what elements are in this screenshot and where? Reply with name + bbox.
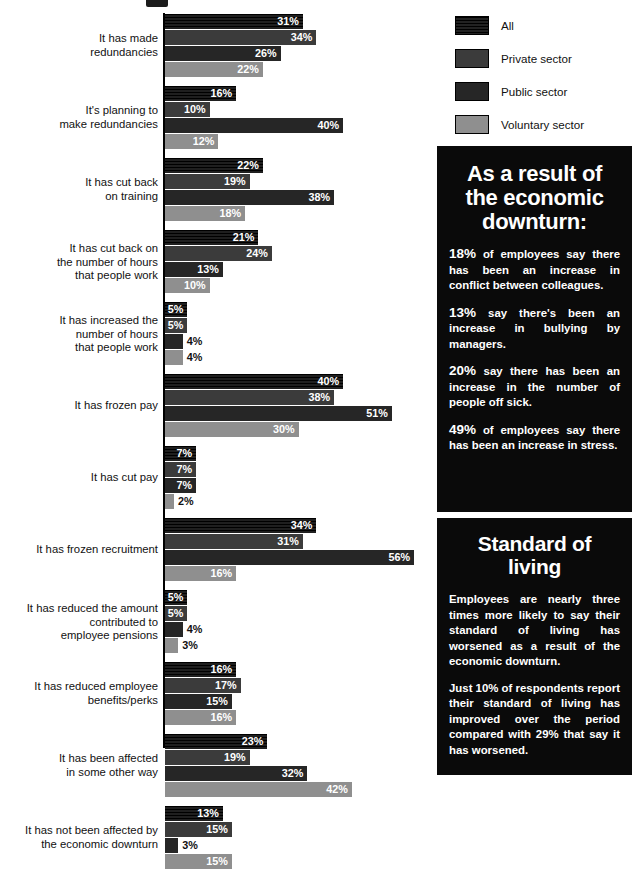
bar-value-label: 10% <box>184 103 206 116</box>
bar-value-label: 13% <box>197 807 219 820</box>
legend-item-label: Public sector <box>501 85 567 98</box>
legend-item-voluntary-sector: Voluntary sector <box>455 113 635 135</box>
info-box-stat: 18% <box>449 246 476 261</box>
legend-item-public-sector: Public sector <box>455 80 635 102</box>
bar <box>165 374 343 389</box>
bar-value-label: 3% <box>182 839 198 852</box>
info-box-title: As a result of the economic downturn: <box>449 162 620 234</box>
bar-group-label-line: in some other way <box>0 766 158 780</box>
bar <box>165 838 178 853</box>
bar-value-label: 4% <box>187 623 203 636</box>
bar-value-label: 19% <box>224 175 246 188</box>
bar <box>165 622 183 637</box>
bar <box>165 782 352 797</box>
bar <box>165 334 183 349</box>
info-box-paragraph: Employees are nearly three times more li… <box>449 592 620 670</box>
info-box-stat: 20% <box>449 363 476 378</box>
bar-group-label-line: contributed to <box>0 616 158 630</box>
bar-group-label: It has frozen pay <box>0 399 158 413</box>
bar-group-label: It has reduced the amountcontributed toe… <box>0 602 158 643</box>
bar-group-label: It has reduced employeebenefits/perks <box>0 680 158 707</box>
legend-item-label: Voluntary sector <box>501 118 584 131</box>
bar-group-label-line: It has reduced employee <box>0 680 158 694</box>
bar-group-label-line: It has cut back on <box>0 242 158 256</box>
bar-value-label: 34% <box>291 31 313 44</box>
bar-group: It has cut back onthe number of hourstha… <box>0 230 430 294</box>
bar-value-label: 16% <box>211 567 233 580</box>
bar-value-label: 3% <box>182 639 198 652</box>
bar-group: It has maderedundancies31%34%26%22% <box>0 14 430 78</box>
bar-group-label-line: the number of hours <box>0 256 158 270</box>
bar-value-label: 13% <box>197 263 219 276</box>
info-box-stat: 49% <box>449 422 476 437</box>
bar-group-label-line: make redundancies <box>0 118 158 132</box>
bar-group: It has been affectedin some other way23%… <box>0 734 430 798</box>
bar-value-label: 7% <box>177 463 193 476</box>
bar-value-label: 18% <box>219 207 241 220</box>
bar-group-label: It has cut backon training <box>0 176 158 203</box>
bar-group-label-line: number of hours <box>0 328 158 342</box>
bar-value-label: 7% <box>177 479 193 492</box>
bar-group-label-line: It has frozen pay <box>0 399 158 413</box>
bar-value-label: 4% <box>187 335 203 348</box>
bar-group-label-line: It has been affected <box>0 752 158 766</box>
bar <box>165 494 174 509</box>
bar-value-label: 34% <box>291 519 313 532</box>
bar-value-label: 26% <box>255 47 277 60</box>
legend-swatch-icon <box>455 49 489 68</box>
info-box-title: Standard of living <box>449 532 620 578</box>
legend-item-label: All <box>501 19 514 32</box>
bar <box>165 350 183 365</box>
bar-value-label: 5% <box>168 591 184 604</box>
legend-swatch-icon <box>455 82 489 101</box>
bar-value-label: 15% <box>206 695 228 708</box>
bar-group-label: It has been affectedin some other way <box>0 752 158 779</box>
bar-value-label: 15% <box>206 823 228 836</box>
bar-group-label: It's planning tomake redundancies <box>0 104 158 131</box>
bar-value-label: 16% <box>211 663 233 676</box>
info-box-paragraph: 49% of employees say there has been an i… <box>449 422 620 454</box>
bar-value-label: 21% <box>233 231 255 244</box>
bar-value-label: 56% <box>389 551 411 564</box>
bar-group-label-line: It has not been affected by <box>0 824 158 838</box>
bar <box>165 118 343 133</box>
legend-item-all: All <box>455 14 635 36</box>
bar <box>165 638 178 653</box>
bar-group: It has reduced employeebenefits/perks16%… <box>0 662 430 726</box>
bar-group: It has frozen recruitment34%31%56%16% <box>0 518 430 582</box>
bar-group-label-line: It has increased the <box>0 314 158 328</box>
bar-value-label: 31% <box>277 535 299 548</box>
legend-swatch-icon <box>455 16 489 35</box>
bar-value-label: 51% <box>366 407 388 420</box>
bar-value-label: 7% <box>177 447 193 460</box>
bar-group-label-line: It has cut back <box>0 176 158 190</box>
bar-group-label: It has increased thenumber of hoursthat … <box>0 314 158 355</box>
legend-swatch-icon <box>455 115 489 134</box>
bar-value-label: 22% <box>237 159 259 172</box>
bar-chart-panel: It has maderedundancies31%34%26%22%It's … <box>0 0 430 791</box>
bar-value-label: 24% <box>246 247 268 260</box>
bar-group-label-line: the economic downturn <box>0 838 158 852</box>
bar-group-label-line: benefits/perks <box>0 694 158 708</box>
bar-value-label: 31% <box>277 15 299 28</box>
bar-group-label: It has not been affected bythe economic … <box>0 824 158 851</box>
info-box-paragraph: 13% say there's been an increase in bull… <box>449 305 620 353</box>
bar-value-label: 23% <box>242 735 264 748</box>
info-box-paragraph: 18% of employees say there has been an i… <box>449 246 620 294</box>
bar-group-label-line: that people work <box>0 269 158 283</box>
info-box-result-of-downturn: As a result of the economic downturn: 18… <box>437 146 632 512</box>
bar-group-label-line: It has made <box>0 32 158 46</box>
bar-group-label-line: It has cut pay <box>0 471 158 485</box>
bar-value-label: 40% <box>317 119 339 132</box>
info-box-paragraph: 20% say there has been an increase in th… <box>449 363 620 411</box>
bar-value-label: 38% <box>308 391 330 404</box>
bar <box>165 406 392 421</box>
bar-group-label-line: that people work <box>0 341 158 355</box>
bar-group-label-line: It has frozen recruitment <box>0 543 158 557</box>
bar-value-label: 16% <box>211 87 233 100</box>
bar-group-label-line: It's planning to <box>0 104 158 118</box>
bar-value-label: 10% <box>184 279 206 292</box>
bar-group-label-line: It has reduced the amount <box>0 602 158 616</box>
bar-group: It has cut pay7%7%7%2% <box>0 446 430 510</box>
bar-value-label: 16% <box>211 711 233 724</box>
